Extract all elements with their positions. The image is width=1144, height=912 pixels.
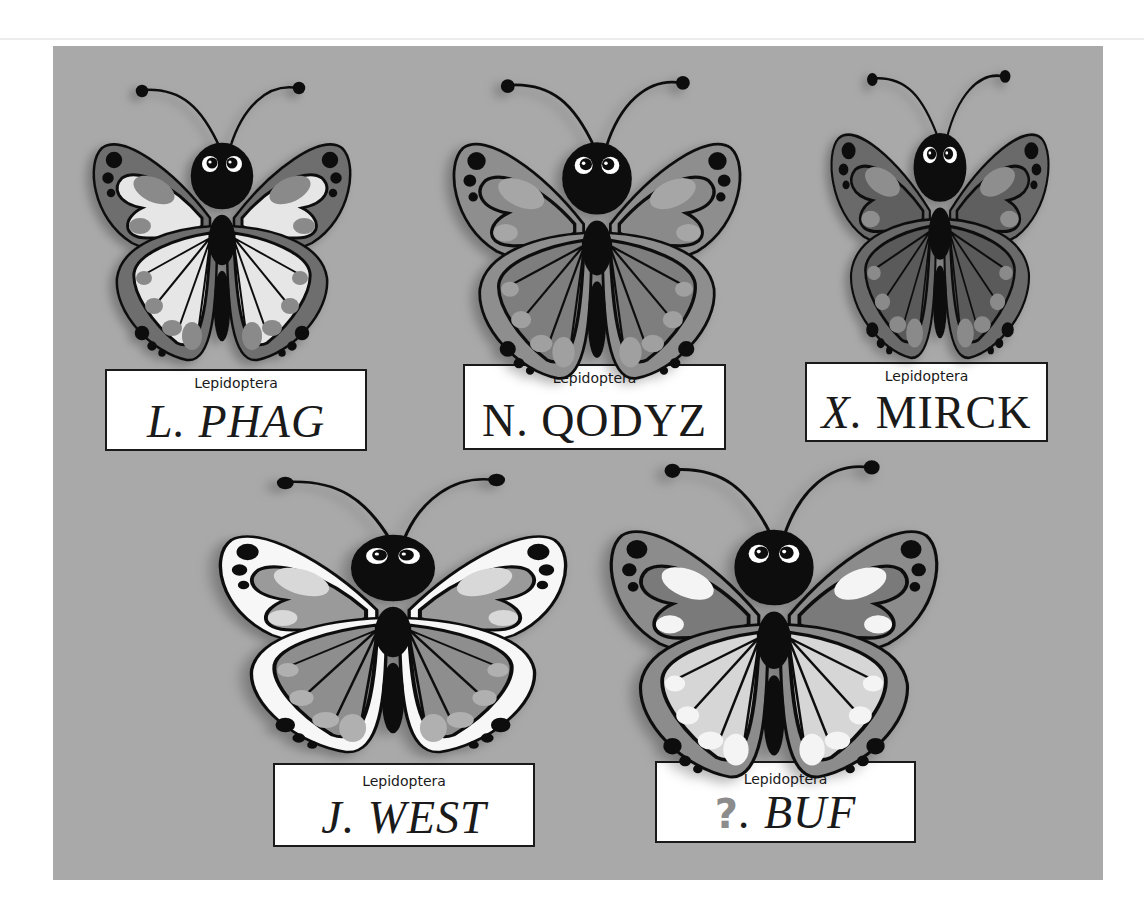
specimen-label-x-mirck: Lepidoptera X. MIRCK — [805, 362, 1048, 442]
order-text: Lepidoptera — [107, 375, 365, 391]
species-text: N. QODYZ — [465, 396, 724, 446]
butterfly-l-phag — [92, 78, 352, 368]
butterfly-illustration — [609, 456, 939, 786]
order-text: Lepidoptera — [807, 368, 1046, 384]
butterfly-illustration — [92, 78, 352, 368]
butterfly-illustration — [218, 470, 568, 760]
butterfly-x-mirck — [830, 66, 1050, 366]
butterfly-illustration — [830, 66, 1050, 366]
species-text: ?. BUF — [657, 788, 914, 839]
butterfly-unknown-buf — [609, 456, 939, 786]
species-text: L. PHAG — [107, 397, 365, 447]
butterfly-illustration — [452, 72, 742, 387]
unknown-genus-mark: ? — [715, 791, 739, 837]
top-divider — [0, 38, 1144, 40]
specimen-label-j-west: Lepidoptera J. WEST — [273, 763, 535, 847]
species-text: X. MIRCK — [807, 388, 1046, 438]
butterfly-n-qodyz — [452, 72, 742, 387]
specimen-label-l-phag: Lepidoptera L. PHAG — [105, 369, 367, 451]
species-text: J. WEST — [275, 793, 533, 843]
order-text: Lepidoptera — [275, 773, 533, 789]
butterfly-j-west — [218, 470, 568, 760]
